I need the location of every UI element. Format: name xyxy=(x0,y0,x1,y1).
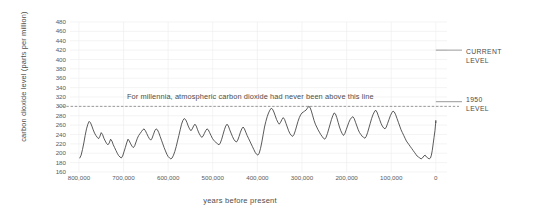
annotation-leader-lines xyxy=(436,50,462,102)
nineteen-fifty-line2: LEVEL xyxy=(466,105,489,114)
current-level-callout: CURRENT LEVEL xyxy=(466,48,502,65)
x-tick-label: 300,000 xyxy=(291,174,313,181)
plot-canvas xyxy=(0,0,538,216)
x-tick-label: 200,000 xyxy=(335,174,357,181)
x-tick-label: 0 xyxy=(434,174,437,181)
x-tick-label: 600,000 xyxy=(157,174,179,181)
nineteen-fifty-level-callout: 1950 LEVEL xyxy=(466,96,489,113)
current-level-line1: CURRENT xyxy=(466,48,502,57)
x-tick-label: 400,000 xyxy=(246,174,268,181)
co2-chart-figure: carbon dioxide level (parts per million)… xyxy=(0,0,538,216)
current-level-line2: LEVEL xyxy=(466,57,502,66)
x-tick-label: 500,000 xyxy=(202,174,224,181)
reference-line-note: For millennia, atmospheric carbon dioxid… xyxy=(127,92,374,101)
x-tick-label: 700,000 xyxy=(112,174,134,181)
co2-series-line xyxy=(80,106,436,159)
x-tick-label: 800,000 xyxy=(68,174,90,181)
x-tick-label: 100,000 xyxy=(380,174,402,181)
nineteen-fifty-line1: 1950 xyxy=(466,96,489,105)
